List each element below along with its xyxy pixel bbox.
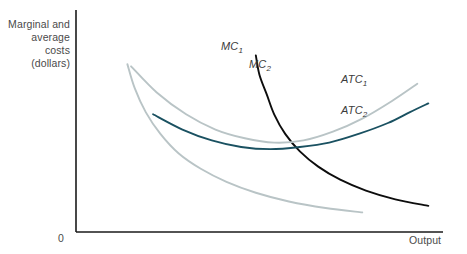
curve-label-mc2: MC2 bbox=[249, 58, 271, 73]
curve-atc1 bbox=[131, 66, 417, 142]
y-axis-title: Marginal and average costs (dollars) bbox=[6, 18, 70, 70]
curve-label-mc2-subscript: 2 bbox=[267, 64, 272, 73]
plot-area bbox=[0, 0, 467, 254]
curve-label-atc1: ATC1 bbox=[341, 73, 367, 88]
curve-label-mc2-text: MC bbox=[249, 58, 267, 70]
curve-label-atc2: ATC2 bbox=[341, 104, 367, 119]
curve-label-atc1-text: ATC bbox=[341, 73, 363, 85]
curve-label-mc1-subscript: 1 bbox=[239, 46, 244, 55]
curve-label-atc2-subscript: 2 bbox=[363, 110, 368, 119]
curve-label-atc1-subscript: 1 bbox=[363, 79, 368, 88]
cost-curves-figure: Marginal and average costs (dollars) Out… bbox=[0, 0, 467, 254]
curves-group bbox=[127, 55, 428, 212]
curve-label-mc1: MC1 bbox=[221, 40, 243, 55]
x-axis-title: Output bbox=[409, 234, 441, 247]
axis-lines bbox=[76, 10, 443, 232]
curve-label-atc2-text: ATC bbox=[341, 104, 363, 116]
curve-label-mc1-text: MC bbox=[221, 40, 239, 52]
origin-label: 0 bbox=[58, 232, 64, 244]
